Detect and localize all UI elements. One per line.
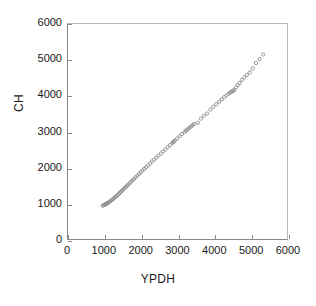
x-axis-tick-label: 6000: [258, 245, 316, 256]
y-axis-tick-label: 6000: [38, 17, 62, 28]
y-axis-tick-label: 5000: [38, 53, 62, 64]
x-axis-tick: [179, 235, 180, 239]
scatter-chart-figure: 0100020003000400050006000 CH 01000200030…: [0, 0, 316, 306]
x-axis-tick: [68, 235, 69, 239]
y-axis-tick: [68, 205, 72, 206]
y-axis-tick-label: 4000: [38, 89, 62, 100]
data-point: [251, 67, 254, 70]
data-point: [209, 108, 212, 111]
x-axis-tick: [215, 235, 216, 239]
data-points-layer: [68, 24, 287, 239]
x-axis-title: YPDH: [0, 272, 316, 286]
data-point: [254, 61, 257, 64]
data-point: [199, 117, 202, 120]
y-axis-tick-label: 1000: [38, 198, 62, 209]
y-axis-tick: [68, 96, 72, 97]
x-axis-tick: [289, 235, 290, 239]
data-point: [245, 73, 248, 76]
y-axis-tick: [68, 133, 72, 134]
data-point: [202, 114, 205, 117]
data-point: [217, 100, 220, 103]
data-point: [215, 103, 218, 106]
x-axis-tick: [252, 235, 253, 239]
x-axis-tick-labels: 0100020003000400050006000: [0, 245, 316, 261]
x-axis-tick: [105, 235, 106, 239]
plot-area: [67, 23, 288, 240]
x-axis-tick: [142, 235, 143, 239]
y-axis-tick-label: 2000: [38, 162, 62, 173]
y-axis-tick: [68, 24, 72, 25]
data-point: [196, 121, 199, 124]
data-point: [258, 57, 261, 60]
y-axis-title: CH: [12, 94, 26, 112]
y-axis-tick: [68, 60, 72, 61]
data-point: [212, 105, 215, 108]
y-axis-tick-label: 3000: [38, 126, 62, 137]
data-point: [262, 53, 265, 56]
y-axis-tick: [68, 169, 72, 170]
data-point: [205, 112, 208, 115]
y-axis-tick-label: 0: [56, 234, 62, 245]
data-point: [248, 71, 251, 74]
y-axis-tick: [68, 241, 72, 242]
